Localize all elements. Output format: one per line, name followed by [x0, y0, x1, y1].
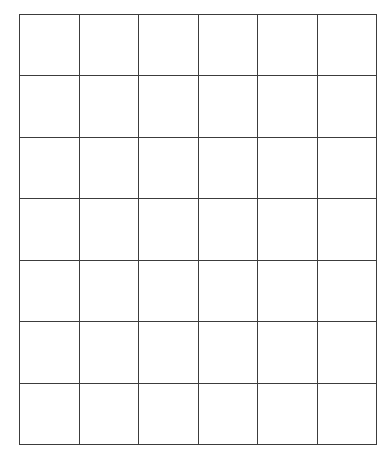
grid-cell-r6c3[interactable] — [139, 322, 199, 383]
grid-cell-r7c1[interactable] — [20, 383, 80, 444]
grid-cell-text — [318, 384, 377, 444]
grid-cell-r2c6[interactable] — [317, 76, 377, 137]
grid-cell-text — [20, 138, 79, 198]
grid-cell-text — [199, 261, 258, 321]
grid-cell-r6c1[interactable] — [20, 322, 80, 383]
grid-cell-r5c6[interactable] — [317, 260, 377, 321]
grid-cell-text — [80, 15, 139, 75]
grid-cell-r6c2[interactable] — [79, 322, 139, 383]
grid-cell-r5c1[interactable] — [20, 260, 80, 321]
grid-cell-text — [199, 76, 258, 136]
grid-cell-text — [80, 261, 139, 321]
grid-cell-text — [20, 199, 79, 259]
grid-cell-r3c3[interactable] — [139, 137, 199, 198]
grid-cell-r7c4[interactable] — [198, 383, 258, 444]
grid-cell-text — [80, 199, 139, 259]
table-row — [20, 260, 377, 321]
table-row — [20, 383, 377, 444]
grid-cell-r2c5[interactable] — [258, 76, 318, 137]
grid-cell-text — [258, 138, 317, 198]
grid-cell-r5c3[interactable] — [139, 260, 199, 321]
grid-cell-r5c4[interactable] — [198, 260, 258, 321]
grid-cell-text — [139, 199, 198, 259]
grid-cell-text — [20, 322, 79, 382]
grid-cell-text — [139, 261, 198, 321]
grid-cell-text — [20, 384, 79, 444]
table-row — [20, 322, 377, 383]
grid-cell-text — [258, 15, 317, 75]
grid-cell-r3c5[interactable] — [258, 137, 318, 198]
grid-cell-r6c6[interactable] — [317, 322, 377, 383]
grid-cell-r1c6[interactable] — [317, 15, 377, 76]
grid-cell-text — [318, 199, 377, 259]
table-row — [20, 137, 377, 198]
grid-cell-r4c2[interactable] — [79, 199, 139, 260]
table-row — [20, 199, 377, 260]
grid-cell-r5c2[interactable] — [79, 260, 139, 321]
grid-cell-r2c2[interactable] — [79, 76, 139, 137]
grid-cell-text — [80, 384, 139, 444]
grid-cell-r1c1[interactable] — [20, 15, 80, 76]
grid-cell-r3c4[interactable] — [198, 137, 258, 198]
grid-cell-text — [80, 322, 139, 382]
grid-cell-r2c4[interactable] — [198, 76, 258, 137]
grid-cell-text — [20, 76, 79, 136]
grid-cell-r6c4[interactable] — [198, 322, 258, 383]
grid-cell-r6c5[interactable] — [258, 322, 318, 383]
grid-cell-text — [258, 322, 317, 382]
grid-cell-text — [199, 199, 258, 259]
grid-cell-text — [199, 322, 258, 382]
grid-cell-text — [199, 384, 258, 444]
grid-cell-text — [318, 261, 377, 321]
grid-cell-text — [20, 15, 79, 75]
table-row — [20, 15, 377, 76]
grid-cell-r4c4[interactable] — [198, 199, 258, 260]
grid-cell-text — [139, 15, 198, 75]
grid-cell-r1c3[interactable] — [139, 15, 199, 76]
grid-body — [20, 15, 377, 445]
grid-cell-r4c1[interactable] — [20, 199, 80, 260]
grid-cell-r2c1[interactable] — [20, 76, 80, 137]
grid-cell-r3c2[interactable] — [79, 137, 139, 198]
grid-cell-text — [80, 138, 139, 198]
grid-cell-text — [258, 261, 317, 321]
table-row — [20, 76, 377, 137]
grid-cell-text — [139, 138, 198, 198]
grid-cell-r4c6[interactable] — [317, 199, 377, 260]
grid-cell-r4c3[interactable] — [139, 199, 199, 260]
grid-cell-r3c6[interactable] — [317, 137, 377, 198]
grid-cell-r4c5[interactable] — [258, 199, 318, 260]
grid-cell-text — [258, 384, 317, 444]
grid-cell-text — [318, 15, 377, 75]
grid-cell-r2c3[interactable] — [139, 76, 199, 137]
grid-cell-r7c6[interactable] — [317, 383, 377, 444]
grid-cell-text — [139, 384, 198, 444]
page-canvas — [0, 0, 391, 466]
grid-cell-text — [199, 138, 258, 198]
grid-cell-r1c4[interactable] — [198, 15, 258, 76]
grid-cell-text — [318, 76, 377, 136]
blank-grid-table — [19, 14, 377, 445]
grid-cell-r7c5[interactable] — [258, 383, 318, 444]
grid-cell-text — [318, 138, 377, 198]
grid-cell-text — [20, 261, 79, 321]
grid-cell-r7c3[interactable] — [139, 383, 199, 444]
grid-cell-text — [318, 322, 377, 382]
grid-cell-r3c1[interactable] — [20, 137, 80, 198]
grid-cell-r1c2[interactable] — [79, 15, 139, 76]
grid-cell-r1c5[interactable] — [258, 15, 318, 76]
grid-cell-text — [199, 15, 258, 75]
grid-cell-text — [80, 76, 139, 136]
grid-cell-text — [258, 199, 317, 259]
grid-cell-text — [139, 322, 198, 382]
grid-cell-r5c5[interactable] — [258, 260, 318, 321]
grid-cell-text — [139, 76, 198, 136]
grid-cell-text — [258, 76, 317, 136]
grid-cell-r7c2[interactable] — [79, 383, 139, 444]
